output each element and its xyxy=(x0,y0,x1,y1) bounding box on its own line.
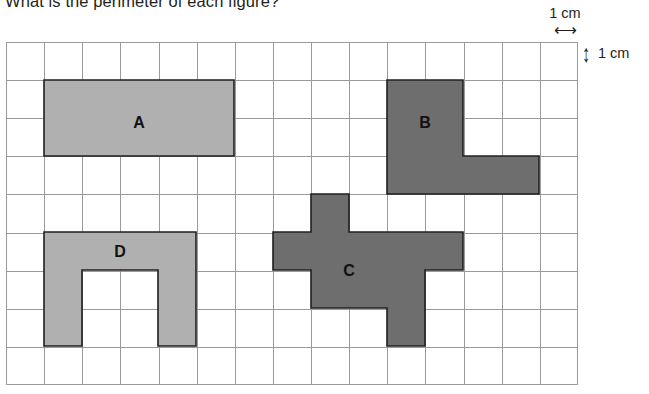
horizontal-scale-legend: 1 cm ⟷ xyxy=(529,4,601,37)
figure-c: C xyxy=(273,194,463,346)
centimeter-grid: A B C D xyxy=(6,42,578,385)
question-text: What is the perimeter of each figure? xyxy=(5,0,279,11)
figure-b-outline xyxy=(387,80,539,194)
double-arrow-vertical-icon: ↕ xyxy=(578,42,594,65)
figure-c-outline xyxy=(273,194,463,346)
figures-layer: A B C D xyxy=(6,42,578,385)
figure-b: B xyxy=(387,80,539,194)
vertical-scale-legend: ↕ 1 cm xyxy=(578,45,629,62)
figure-a: A xyxy=(44,80,234,156)
figure-a-label: A xyxy=(133,114,145,131)
figure-b-label: B xyxy=(419,114,431,131)
figure-d: D xyxy=(44,232,196,346)
figure-d-label: D xyxy=(114,243,126,260)
figure-c-label: C xyxy=(343,262,355,279)
double-arrow-horizontal-icon: ⟷ xyxy=(529,23,601,37)
vertical-scale-label: 1 cm xyxy=(598,45,629,62)
horizontal-scale-label: 1 cm xyxy=(549,5,580,21)
